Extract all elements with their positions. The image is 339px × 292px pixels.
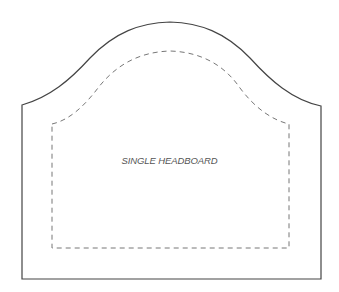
headboard-inner-seam bbox=[52, 51, 289, 248]
headboard-diagram bbox=[0, 0, 339, 292]
headboard-outer-outline bbox=[22, 22, 321, 279]
headboard-label: SINGLE HEADBOARD bbox=[0, 155, 339, 166]
